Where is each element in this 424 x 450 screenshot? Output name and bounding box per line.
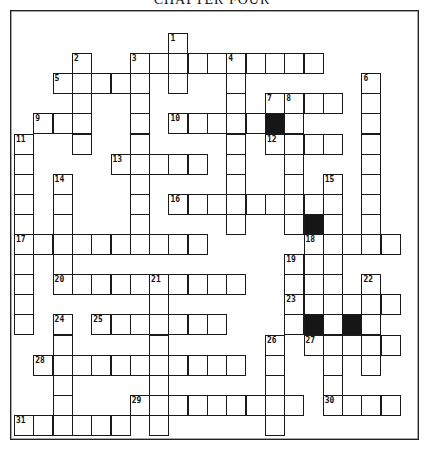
grid-cell[interactable] — [284, 53, 304, 74]
grid-cell[interactable] — [72, 134, 92, 155]
grid-cell[interactable] — [14, 154, 34, 175]
grid-cell[interactable] — [265, 355, 285, 376]
grid-cell[interactable] — [53, 375, 73, 396]
grid-cell[interactable] — [14, 254, 34, 275]
grid-cell[interactable] — [304, 134, 324, 155]
grid-cell[interactable] — [246, 53, 266, 74]
grid-cell[interactable] — [361, 93, 381, 114]
grid-cell[interactable] — [284, 174, 304, 195]
grid-cell[interactable] — [14, 314, 34, 335]
grid-cell[interactable] — [361, 134, 381, 155]
grid-cell[interactable] — [361, 194, 381, 215]
grid-cell[interactable] — [149, 355, 169, 376]
grid-cell[interactable]: 6 — [361, 73, 381, 94]
grid-cell[interactable] — [323, 234, 343, 255]
grid-cell[interactable] — [361, 174, 381, 195]
grid-cell[interactable] — [149, 395, 169, 416]
grid-cell[interactable] — [91, 415, 111, 436]
grid-cell[interactable] — [149, 335, 169, 356]
grid-cell[interactable] — [168, 274, 188, 295]
grid-cell[interactable] — [111, 274, 131, 295]
grid-cell[interactable] — [188, 234, 208, 255]
grid-cell[interactable]: 22 — [361, 274, 381, 295]
grid-cell[interactable] — [14, 194, 34, 215]
grid-cell[interactable] — [149, 314, 169, 335]
grid-cell[interactable] — [207, 53, 227, 74]
grid-cell[interactable] — [207, 314, 227, 335]
grid-cell[interactable] — [33, 234, 53, 255]
grid-cell[interactable] — [361, 335, 381, 356]
grid-cell[interactable] — [304, 254, 324, 275]
grid-cell[interactable] — [323, 314, 343, 335]
grid-cell[interactable] — [361, 154, 381, 175]
grid-cell[interactable]: 31 — [14, 415, 34, 436]
grid-cell[interactable] — [168, 73, 188, 94]
grid-cell[interactable] — [111, 415, 131, 436]
grid-cell[interactable]: 20 — [53, 274, 73, 295]
grid-cell[interactable] — [226, 134, 246, 155]
grid-cell[interactable]: 25 — [91, 314, 111, 335]
grid-cell[interactable] — [149, 415, 169, 436]
grid-cell[interactable] — [323, 294, 343, 315]
grid-cell[interactable] — [53, 335, 73, 356]
grid-cell[interactable] — [130, 214, 150, 235]
grid-cell[interactable]: 23 — [284, 294, 304, 315]
grid-cell[interactable] — [72, 73, 92, 94]
grid-cell[interactable] — [53, 415, 73, 436]
grid-cell[interactable] — [72, 93, 92, 114]
grid-cell[interactable] — [130, 355, 150, 376]
grid-cell[interactable] — [284, 113, 304, 134]
grid-cell[interactable] — [304, 274, 324, 295]
grid-cell[interactable] — [130, 154, 150, 175]
grid-cell[interactable] — [130, 174, 150, 195]
grid-cell[interactable]: 26 — [265, 335, 285, 356]
grid-cell[interactable] — [168, 154, 188, 175]
grid-cell[interactable] — [284, 395, 304, 416]
grid-cell[interactable] — [342, 335, 362, 356]
grid-cell[interactable] — [130, 194, 150, 215]
grid-cell[interactable] — [361, 234, 381, 255]
grid-cell[interactable] — [130, 113, 150, 134]
grid-cell[interactable] — [246, 113, 266, 134]
grid-cell[interactable] — [72, 415, 92, 436]
grid-cell[interactable] — [72, 234, 92, 255]
grid-cell[interactable] — [188, 395, 208, 416]
grid-cell[interactable]: 1 — [168, 33, 188, 54]
grid-cell[interactable]: 3 — [130, 53, 150, 74]
grid-cell[interactable] — [168, 234, 188, 255]
grid-cell[interactable] — [72, 113, 92, 134]
grid-cell[interactable] — [284, 154, 304, 175]
grid-cell[interactable] — [226, 395, 246, 416]
grid-cell[interactable]: 10 — [168, 113, 188, 134]
grid-cell[interactable]: 15 — [323, 174, 343, 195]
grid-cell[interactable] — [53, 234, 73, 255]
grid-cell[interactable] — [168, 395, 188, 416]
grid-cell[interactable] — [53, 113, 73, 134]
grid-cell[interactable] — [111, 73, 131, 94]
grid-cell[interactable] — [207, 395, 227, 416]
grid-cell[interactable] — [149, 294, 169, 315]
grid-cell[interactable] — [226, 174, 246, 195]
grid-cell[interactable] — [323, 134, 343, 155]
grid-cell[interactable] — [14, 274, 34, 295]
grid-cell[interactable] — [265, 395, 285, 416]
grid-cell[interactable] — [226, 194, 246, 215]
grid-cell[interactable] — [53, 194, 73, 215]
grid-cell[interactable] — [111, 314, 131, 335]
grid-cell[interactable] — [246, 395, 266, 416]
grid-cell[interactable] — [149, 375, 169, 396]
grid-cell[interactable] — [91, 73, 111, 94]
grid-cell[interactable] — [226, 73, 246, 94]
grid-cell[interactable]: 19 — [284, 254, 304, 275]
grid-cell[interactable] — [111, 234, 131, 255]
grid-cell[interactable]: 24 — [53, 314, 73, 335]
grid-cell[interactable] — [91, 234, 111, 255]
grid-cell[interactable] — [323, 254, 343, 275]
grid-cell[interactable] — [33, 415, 53, 436]
grid-cell[interactable] — [323, 274, 343, 295]
grid-cell[interactable]: 5 — [53, 73, 73, 94]
grid-cell[interactable] — [149, 53, 169, 74]
grid-cell[interactable] — [381, 234, 401, 255]
grid-cell[interactable] — [304, 194, 324, 215]
grid-cell[interactable] — [323, 355, 343, 376]
